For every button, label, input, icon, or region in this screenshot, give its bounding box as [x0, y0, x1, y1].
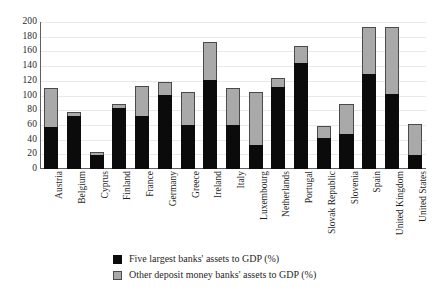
bar-stack[interactable] [226, 88, 240, 169]
bar-stack[interactable] [181, 92, 195, 169]
bar-stack[interactable] [67, 112, 81, 169]
bar-segment-other-deposit-banks[interactable] [249, 92, 263, 145]
bar-segment-five-largest-banks[interactable] [385, 94, 399, 169]
bar-segment-other-deposit-banks[interactable] [181, 92, 195, 125]
bar-group[interactable] [362, 22, 376, 169]
x-tick-label: Luxembourg [260, 171, 270, 245]
bar-group[interactable] [385, 22, 399, 169]
bar-stack[interactable] [271, 78, 285, 169]
bar-segment-five-largest-banks[interactable] [249, 145, 263, 169]
x-tick-label: Ireland [214, 171, 224, 245]
bar-group[interactable] [181, 22, 195, 169]
bar-segment-five-largest-banks[interactable] [112, 108, 126, 169]
bar-group[interactable] [271, 22, 285, 169]
y-tick-label: 200 [1, 17, 37, 27]
legend-label: Other deposit money banks' assets to GDP… [129, 270, 316, 280]
legend-label: Five largest banks' assets to GDP (%) [129, 254, 279, 264]
bar-group[interactable] [112, 22, 126, 169]
bar-segment-other-deposit-banks[interactable] [362, 27, 376, 74]
y-tick-label: 140 [1, 61, 37, 71]
bar-stack[interactable] [385, 27, 399, 169]
bar-stack[interactable] [158, 82, 172, 169]
bar-stack[interactable] [339, 104, 353, 169]
bar-stack[interactable] [294, 46, 308, 169]
bar-segment-other-deposit-banks[interactable] [271, 78, 285, 87]
bar-segment-five-largest-banks[interactable] [226, 125, 240, 169]
bar-segment-five-largest-banks[interactable] [90, 155, 104, 169]
bar-stack[interactable] [362, 27, 376, 169]
x-tick-label: Slovenia [351, 171, 361, 245]
bar-series-container [40, 22, 426, 169]
x-tick-label: Cyprus [101, 171, 111, 245]
legend-item[interactable]: Other deposit money banks' assets to GDP… [113, 268, 413, 282]
bar-group[interactable] [226, 22, 240, 169]
bar-segment-other-deposit-banks[interactable] [135, 86, 149, 116]
x-tick-label: United States [419, 171, 429, 245]
x-tick-label: Austria [55, 171, 65, 245]
x-tick-label: France [146, 171, 156, 245]
bar-segment-other-deposit-banks[interactable] [203, 42, 217, 80]
bar-group[interactable] [90, 22, 104, 169]
y-tick-label: 120 [1, 76, 37, 86]
x-tick-label: Netherlands [282, 171, 292, 245]
legend-swatch-five [113, 255, 122, 264]
y-tick-label: 160 [1, 46, 37, 56]
bar-segment-five-largest-banks[interactable] [362, 74, 376, 169]
x-tick-label: Greece [192, 171, 202, 245]
bar-segment-five-largest-banks[interactable] [67, 116, 81, 169]
bar-group[interactable] [135, 22, 149, 169]
bar-group[interactable] [203, 22, 217, 169]
bar-group[interactable] [294, 22, 308, 169]
bar-segment-other-deposit-banks[interactable] [294, 46, 308, 63]
x-axis-labels: AustriaBelgiumCyprusFinlandFranceGermany… [40, 171, 426, 247]
x-tick-label: Germany [169, 171, 179, 245]
bar-group[interactable] [249, 22, 263, 169]
y-tick-label: 100 [1, 91, 37, 101]
bar-group[interactable] [339, 22, 353, 169]
bar-group[interactable] [67, 22, 81, 169]
bar-segment-five-largest-banks[interactable] [181, 125, 195, 169]
bar-segment-five-largest-banks[interactable] [294, 63, 308, 169]
bar-stack[interactable] [90, 152, 104, 169]
y-tick-label: 80 [1, 105, 37, 115]
y-tick-label: 60 [1, 120, 37, 130]
bar-segment-other-deposit-banks[interactable] [158, 82, 172, 94]
bar-group[interactable] [317, 22, 331, 169]
bar-segment-five-largest-banks[interactable] [135, 116, 149, 169]
y-axis: 200180160140120100806040200 [0, 22, 37, 169]
bar-group[interactable] [408, 22, 422, 169]
bar-segment-five-largest-banks[interactable] [44, 127, 58, 169]
bar-segment-five-largest-banks[interactable] [203, 80, 217, 169]
bar-group[interactable] [44, 22, 58, 169]
y-tick-label: 40 [1, 135, 37, 145]
bar-stack[interactable] [203, 42, 217, 169]
bar-stack[interactable] [408, 124, 422, 169]
bar-segment-other-deposit-banks[interactable] [44, 88, 58, 127]
bar-segment-five-largest-banks[interactable] [271, 87, 285, 169]
bar-segment-other-deposit-banks[interactable] [385, 27, 399, 94]
plot-area [40, 22, 426, 169]
bar-segment-other-deposit-banks[interactable] [317, 126, 331, 138]
bar-stack[interactable] [249, 92, 263, 169]
x-tick-label: Portugal [305, 171, 315, 245]
bar-segment-other-deposit-banks[interactable] [408, 124, 422, 155]
bar-segment-five-largest-banks[interactable] [339, 134, 353, 169]
chart-figure: 200180160140120100806040200 AustriaBelgi… [0, 0, 433, 300]
bar-stack[interactable] [44, 88, 58, 169]
bar-stack[interactable] [135, 86, 149, 169]
x-tick-label: Slovak Republic [328, 171, 338, 245]
legend-swatch-other [113, 271, 122, 280]
bar-segment-other-deposit-banks[interactable] [339, 104, 353, 133]
bar-stack[interactable] [112, 104, 126, 169]
x-tick-label: United Kingdom [396, 171, 406, 245]
legend-item[interactable]: Five largest banks' assets to GDP (%) [113, 252, 413, 266]
x-tick-label: Spain [373, 171, 383, 245]
bar-group[interactable] [158, 22, 172, 169]
bar-segment-other-deposit-banks[interactable] [226, 88, 240, 125]
x-tick-label: Finland [123, 171, 133, 245]
bar-segment-five-largest-banks[interactable] [408, 155, 422, 169]
chart-legend: Five largest banks' assets to GDP (%)Oth… [113, 252, 413, 284]
bar-segment-five-largest-banks[interactable] [317, 138, 331, 169]
bar-stack[interactable] [317, 126, 331, 169]
bar-segment-five-largest-banks[interactable] [158, 95, 172, 169]
